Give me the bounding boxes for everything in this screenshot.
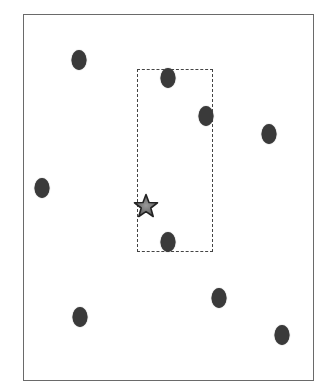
data-point (35, 178, 50, 198)
data-point (199, 106, 214, 126)
data-point (72, 50, 87, 70)
data-point (73, 307, 88, 327)
data-point (161, 232, 176, 252)
data-point (262, 124, 277, 144)
data-point (161, 68, 176, 88)
data-point (212, 288, 227, 308)
star-icon (133, 193, 159, 219)
data-point (275, 325, 290, 345)
query-rectangle (137, 69, 213, 252)
